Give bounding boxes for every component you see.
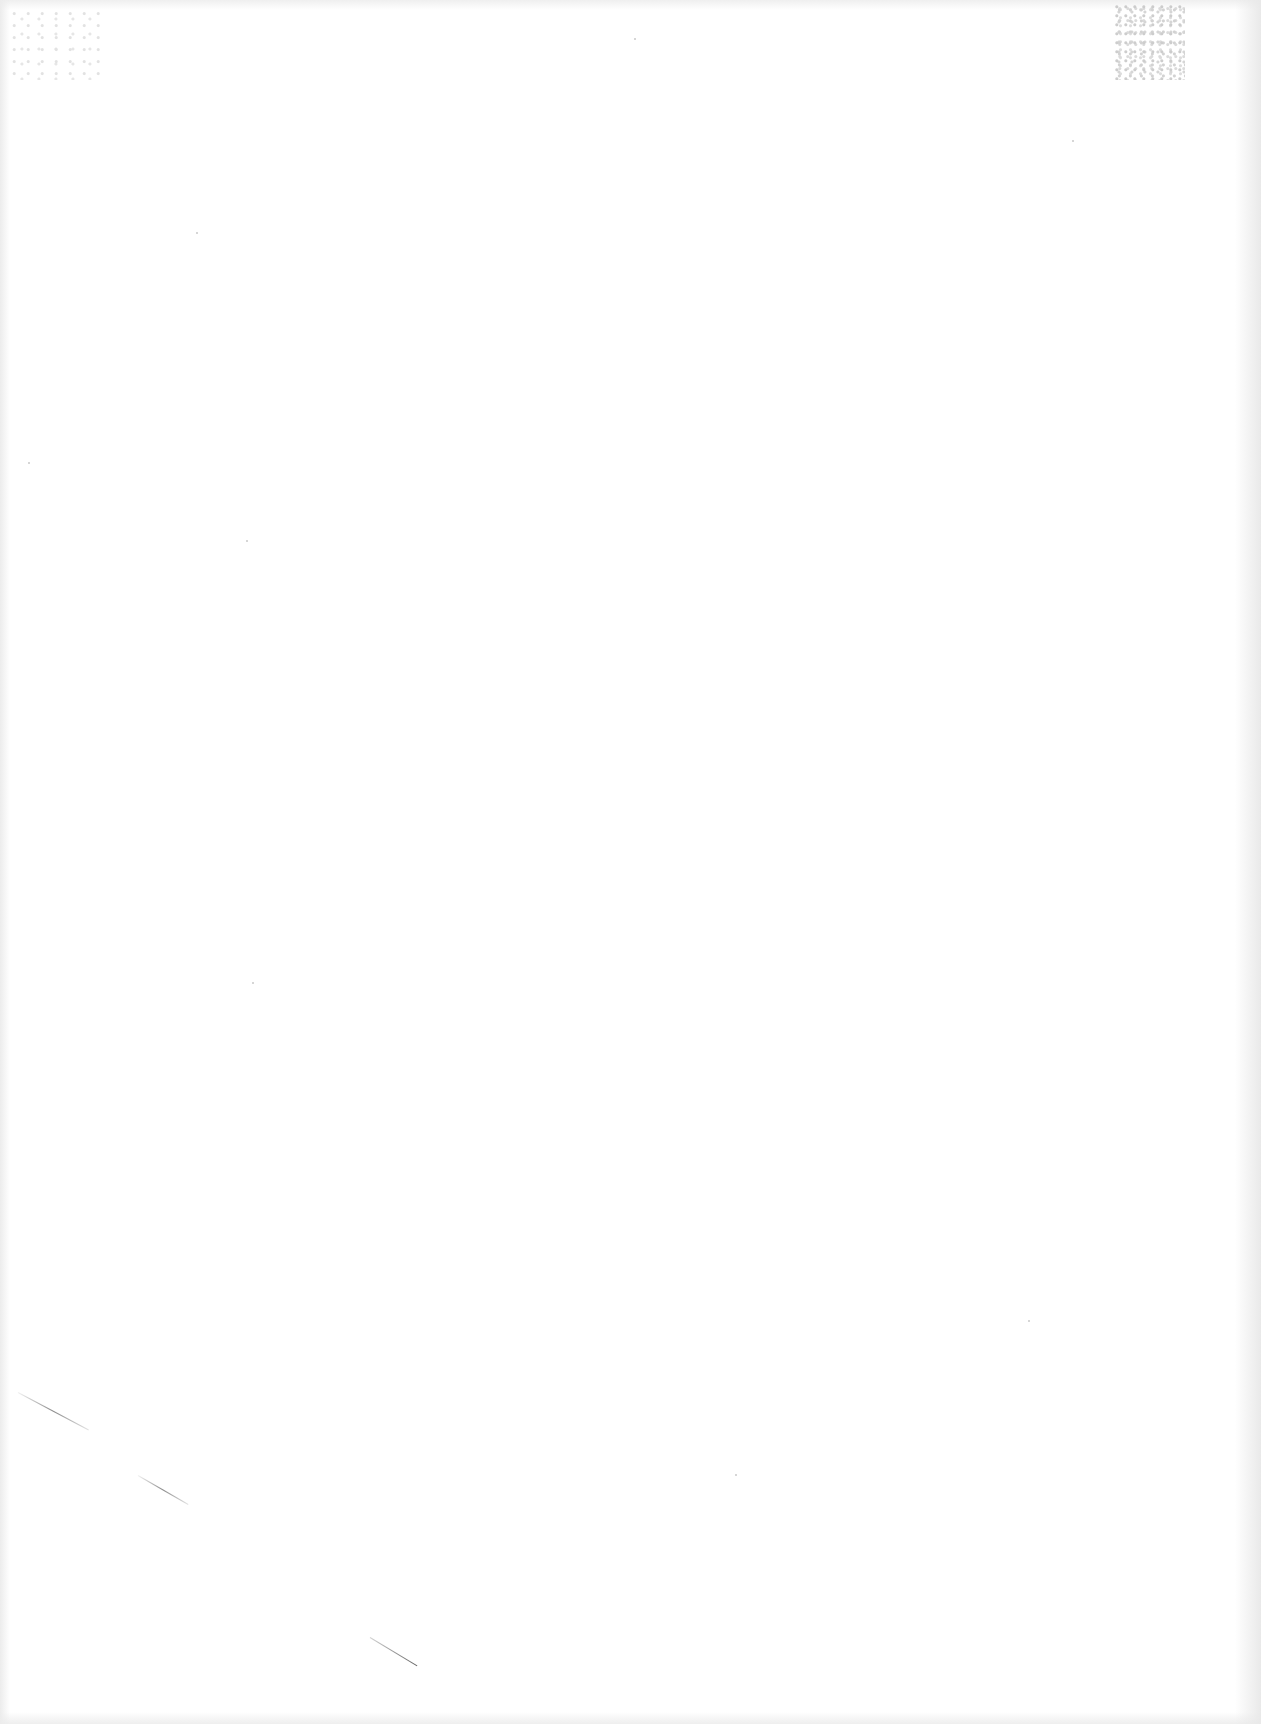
scan-edge-right bbox=[1235, 0, 1261, 1724]
pencil-stroke-mark bbox=[370, 1637, 418, 1666]
scan-dust-dot bbox=[246, 540, 248, 542]
scan-dust-dot bbox=[735, 1474, 737, 1476]
scan-edge-bottom bbox=[0, 1712, 1261, 1724]
scan-dust-dot bbox=[634, 38, 636, 40]
scan-edge-top bbox=[0, 0, 1261, 10]
pencil-stroke-mark bbox=[138, 1475, 189, 1505]
scan-dust-dot bbox=[1028, 1320, 1030, 1322]
scan-speckle-patch-top-right bbox=[1115, 5, 1185, 80]
pencil-stroke-mark bbox=[18, 1392, 89, 1430]
scan-dust-dot bbox=[1072, 140, 1074, 142]
scan-dust-dot bbox=[252, 982, 254, 984]
scan-dust-dot bbox=[28, 462, 30, 464]
scan-dust-dot bbox=[196, 232, 198, 234]
blank-page bbox=[0, 0, 1261, 1724]
scan-edge-left bbox=[0, 0, 10, 1724]
scan-speckle-top-left bbox=[10, 10, 100, 80]
